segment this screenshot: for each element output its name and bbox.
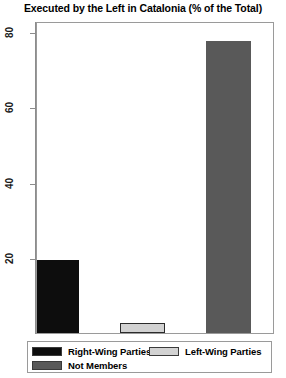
legend-swatch-right-wing-parties xyxy=(32,347,62,356)
chart-legend: Right-Wing Parties Left-Wing Parties Not… xyxy=(27,341,272,373)
legend-label-right-wing-parties: Right-Wing Parties xyxy=(68,346,151,357)
bar-chart-figure: Executed by the Left in Catalonia (% of … xyxy=(0,0,286,378)
y-tick-label: 40 xyxy=(4,168,15,198)
plot-inner xyxy=(37,23,273,333)
legend-item-not-members: Not Members xyxy=(32,360,149,371)
bar-not-members xyxy=(206,41,251,333)
y-tick-label: 20 xyxy=(4,243,15,273)
legend-swatch-not-members xyxy=(32,361,62,370)
legend-row: Not Members xyxy=(32,359,267,371)
legend-swatch-left-wing-parties xyxy=(149,347,179,356)
bar-left-wing-parties xyxy=(120,323,165,333)
legend-item-left-wing-parties: Left-Wing Parties xyxy=(149,346,261,357)
bar-right-wing-parties xyxy=(36,260,79,333)
legend-row: Right-Wing Parties Left-Wing Parties xyxy=(32,345,267,357)
page-title: Executed by the Left in Catalonia (% of … xyxy=(0,2,286,14)
y-tick-label: 60 xyxy=(4,93,15,123)
legend-label-left-wing-parties: Left-Wing Parties xyxy=(185,346,261,357)
legend-label-not-members: Not Members xyxy=(68,360,127,371)
plot-area xyxy=(36,22,274,334)
y-tick-label: 80 xyxy=(4,18,15,48)
legend-item-right-wing-parties: Right-Wing Parties xyxy=(32,346,149,357)
